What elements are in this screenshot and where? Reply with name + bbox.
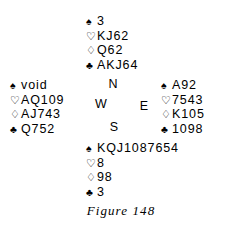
hand-north: ♠ 3 ♡ KJ62 ♢ Q62 ♣ AKJ64 xyxy=(86,14,138,72)
heart-suit-icon: ♡ xyxy=(86,29,97,44)
compass-west-label: W xyxy=(94,98,108,111)
north-spades-row: ♠ 3 xyxy=(86,14,138,29)
diamond-suit-icon: ♢ xyxy=(86,170,97,185)
north-hearts-row: ♡ KJ62 xyxy=(86,29,138,44)
west-hearts-row: ♡ AQ109 xyxy=(10,93,64,108)
heart-suit-icon: ♡ xyxy=(161,93,172,108)
north-hearts-cards: KJ62 xyxy=(97,29,129,44)
club-suit-icon: ♣ xyxy=(161,122,172,137)
east-diamonds-cards: K105 xyxy=(172,107,205,122)
compass-south-label: S xyxy=(107,121,121,134)
west-spades-cards: void xyxy=(21,78,48,93)
north-diamonds-cards: Q62 xyxy=(97,43,123,58)
compass-east-label: E xyxy=(137,100,151,113)
north-clubs-cards: AKJ64 xyxy=(97,58,138,73)
east-hearts-row: ♡ 7543 xyxy=(161,93,205,108)
spade-suit-icon: ♠ xyxy=(86,141,97,156)
spade-suit-icon: ♠ xyxy=(10,78,21,93)
north-spades-cards: 3 xyxy=(97,14,105,29)
east-clubs-cards: 1098 xyxy=(172,122,203,137)
diamond-suit-icon: ♢ xyxy=(10,107,21,122)
west-spades-row: ♠ void xyxy=(10,78,64,93)
south-diamonds-row: ♢ 98 xyxy=(86,170,179,185)
club-suit-icon: ♣ xyxy=(86,185,97,200)
spade-suit-icon: ♠ xyxy=(86,14,97,29)
west-diamonds-row: ♢ AJ743 xyxy=(10,107,64,122)
club-suit-icon: ♣ xyxy=(10,122,21,137)
south-spades-row: ♠ KQJ1087654 xyxy=(86,141,179,156)
hand-east: ♠ A92 ♡ 7543 ♢ K105 ♣ 1098 xyxy=(161,78,205,136)
diamond-suit-icon: ♢ xyxy=(161,107,172,122)
east-spades-cards: A92 xyxy=(172,78,197,93)
south-spades-cards: KQJ1087654 xyxy=(97,141,179,156)
south-clubs-cards: 3 xyxy=(97,185,105,200)
south-clubs-row: ♣ 3 xyxy=(86,185,179,200)
spade-suit-icon: ♠ xyxy=(161,78,172,93)
east-clubs-row: ♣ 1098 xyxy=(161,122,205,137)
east-hearts-cards: 7543 xyxy=(172,93,203,108)
north-clubs-row: ♣ AKJ64 xyxy=(86,58,138,73)
west-clubs-row: ♣ Q752 xyxy=(10,122,64,137)
south-hearts-cards: 8 xyxy=(97,156,105,171)
west-clubs-cards: Q752 xyxy=(21,122,55,137)
bridge-hand-diagram: ♠ 3 ♡ KJ62 ♢ Q62 ♣ AKJ64 ♠ void ♡ AQ109 … xyxy=(0,0,228,235)
heart-suit-icon: ♡ xyxy=(86,156,97,171)
hand-south: ♠ KQJ1087654 ♡ 8 ♢ 98 ♣ 3 xyxy=(86,141,179,199)
club-suit-icon: ♣ xyxy=(86,58,97,73)
north-diamonds-row: ♢ Q62 xyxy=(86,43,138,58)
south-diamonds-cards: 98 xyxy=(97,170,113,185)
east-diamonds-row: ♢ K105 xyxy=(161,107,205,122)
hand-west: ♠ void ♡ AQ109 ♢ AJ743 ♣ Q752 xyxy=(10,78,64,136)
south-hearts-row: ♡ 8 xyxy=(86,156,179,171)
compass-north-label: N xyxy=(106,78,120,91)
west-hearts-cards: AQ109 xyxy=(21,93,64,108)
heart-suit-icon: ♡ xyxy=(10,93,21,108)
diamond-suit-icon: ♢ xyxy=(86,43,97,58)
west-diamonds-cards: AJ743 xyxy=(21,107,61,122)
east-spades-row: ♠ A92 xyxy=(161,78,205,93)
figure-caption: Figure 148 xyxy=(0,203,228,219)
